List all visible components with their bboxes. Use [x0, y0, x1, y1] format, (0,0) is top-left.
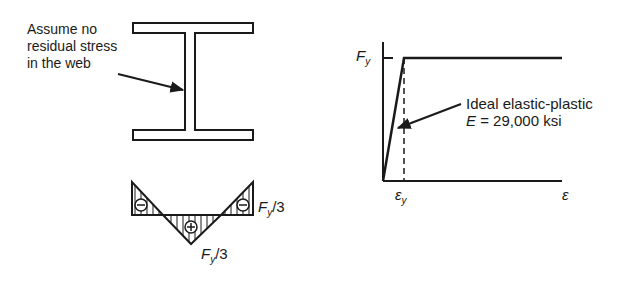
web-note: Assume no residual stress in the web [27, 21, 117, 72]
annotation-leader-arrow [398, 104, 461, 128]
compression-sign-left [135, 199, 147, 211]
web-leader-arrow [118, 74, 183, 90]
compression-sign-right [237, 199, 249, 211]
web-note-line-2: residual stress [27, 38, 117, 55]
annotation-line-1: Ideal elastic-plastic [466, 95, 593, 112]
residual-stress-diagram [132, 182, 253, 244]
x-axis-label: ε [562, 186, 569, 203]
curve-annotation: Ideal elastic-plastic E = 29,000 ksi [466, 95, 593, 129]
flange-stress-label: Fy/3 [258, 198, 285, 217]
web-note-line-1: Assume no [27, 21, 117, 38]
x-tick-label: εy [395, 186, 407, 205]
web-stress-label: Fy/3 [201, 245, 228, 264]
y-axis-label: Fy [356, 47, 370, 66]
web-note-line-3: in the web [27, 55, 117, 72]
tension-sign-center [185, 221, 197, 233]
annotation-line-2: E = 29,000 ksi [466, 112, 593, 129]
